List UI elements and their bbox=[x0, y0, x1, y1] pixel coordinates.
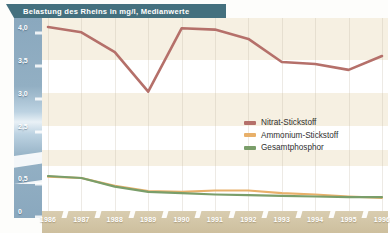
y-axis-tick-label: 3,5 bbox=[14, 57, 42, 64]
x-axis-tick-label: 1989 bbox=[140, 216, 156, 223]
x-axis-tick-label: 1995 bbox=[340, 216, 356, 223]
x-axis-tick-mark bbox=[128, 211, 135, 218]
y-axis-tick-mark bbox=[35, 65, 42, 68]
series-line-nitrat bbox=[48, 27, 382, 92]
x-axis-tick-mark bbox=[262, 211, 269, 218]
legend-item-phosphor: Gesamtphosphor bbox=[244, 143, 338, 152]
y-axis-tick-mark bbox=[35, 98, 42, 101]
x-axis-tick-mark bbox=[61, 211, 68, 218]
chart-title-banner: Belastung des Rheins in mg/l, Medianwert… bbox=[14, 4, 226, 18]
x-axis-tick-mark bbox=[295, 211, 302, 218]
legend-label-ammonium: Ammonium-Stickstoff bbox=[261, 131, 338, 140]
legend-swatch-phosphor bbox=[244, 146, 256, 150]
banner-tail-icon bbox=[6, 4, 14, 18]
x-axis-tick-mark bbox=[161, 211, 168, 218]
series-line-phosphor bbox=[48, 176, 382, 197]
legend-item-nitrat: Nitrat-Stickstoff bbox=[244, 118, 338, 127]
x-axis-tick-label: 1991 bbox=[207, 216, 223, 223]
x-axis-tick-mark bbox=[228, 211, 235, 218]
x-axis-tick-mark bbox=[195, 211, 202, 218]
y-axis-tick-label: 4,0 bbox=[14, 24, 42, 31]
legend-label-nitrat: Nitrat-Stickstoff bbox=[261, 118, 316, 127]
chart-legend: Nitrat-Stickstoff Ammonium-Stickstoff Ge… bbox=[244, 118, 338, 152]
y-axis: 4,03,53,02,50,50 bbox=[14, 18, 42, 218]
x-axis-tick-label: 1993 bbox=[274, 216, 290, 223]
x-axis-tick-label: 1988 bbox=[107, 216, 123, 223]
x-axis-tick-mark bbox=[328, 211, 335, 218]
y-axis-tick-label: 3,0 bbox=[14, 90, 42, 97]
page-title: Belastung des Rheins in mg/l, Medianwert… bbox=[14, 7, 189, 16]
y-axis-tick-label: 2,5 bbox=[14, 123, 42, 130]
y-axis-tick-label: 0,5 bbox=[14, 175, 42, 182]
y-axis-tick-mark bbox=[35, 32, 42, 35]
x-axis-tick-label: 1996 bbox=[374, 216, 390, 223]
legend-item-ammonium: Ammonium-Stickstoff bbox=[244, 131, 338, 140]
x-axis-tick-label: 1986 bbox=[40, 216, 56, 223]
y-axis-tick-mark bbox=[35, 183, 42, 186]
legend-swatch-ammonium bbox=[244, 133, 256, 137]
x-axis-tick-label: 1992 bbox=[240, 216, 256, 223]
y-axis-tick-label: 0 bbox=[14, 208, 42, 215]
legend-label-phosphor: Gesamtphosphor bbox=[261, 143, 324, 152]
x-axis-tick-label: 1990 bbox=[173, 216, 189, 223]
x-axis-tick-label: 1994 bbox=[307, 216, 323, 223]
x-axis: 1986198719881989199019911992199319941995… bbox=[42, 211, 388, 233]
x-axis-tick-mark bbox=[362, 211, 369, 218]
y-axis-tick-mark bbox=[35, 131, 42, 134]
x-axis-tick-label: 1987 bbox=[73, 216, 89, 223]
x-axis-tick-mark bbox=[95, 211, 102, 218]
legend-swatch-nitrat bbox=[244, 121, 256, 125]
